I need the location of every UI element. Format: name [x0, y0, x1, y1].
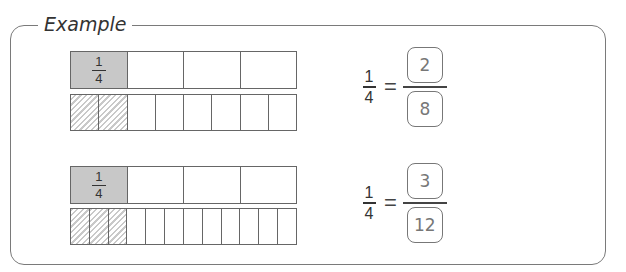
rhs-fraction: 3 12: [403, 163, 447, 243]
fraction-line: [363, 202, 376, 203]
answer-denominator-box[interactable]: 12: [407, 207, 443, 243]
equals-sign: =: [384, 192, 397, 214]
bar-cell: [165, 209, 184, 244]
cell-denominator: 4: [71, 72, 127, 86]
cell-fraction: 1 4: [71, 55, 127, 86]
lhs-fraction: 1 4: [362, 184, 376, 221]
cell-denominator: 4: [71, 187, 127, 201]
bar-cell-hatched: [90, 209, 109, 244]
cell-fraction: 1 4: [71, 170, 127, 201]
lhs-denominator: 4: [362, 89, 376, 106]
bar-cell: [184, 209, 203, 244]
lhs-numerator: 1: [362, 184, 376, 201]
fraction-line: [403, 86, 447, 88]
cell-numerator: 1: [71, 55, 127, 69]
bar-cell: [127, 209, 146, 244]
bar-cell: [222, 209, 241, 244]
fraction-line: [403, 202, 447, 204]
bar-cell: [212, 95, 240, 130]
bar-cell: [240, 209, 259, 244]
rhs-fraction: 2 8: [403, 47, 447, 127]
bar-cell: [203, 209, 222, 244]
bar-cell: [241, 52, 297, 88]
bar-cell: [128, 52, 185, 88]
answer-denominator-box[interactable]: 8: [407, 91, 443, 127]
bar-cell: [278, 209, 296, 244]
lhs-numerator: 1: [362, 68, 376, 85]
bar-cell-hatched: [71, 95, 99, 130]
equation-2: 1 4 = 3 12: [362, 163, 447, 243]
bar-cell-shaded: 1 4: [71, 52, 128, 88]
bar-cell: [259, 209, 278, 244]
lhs-fraction: 1 4: [362, 68, 376, 105]
bar-cell-hatched: [109, 209, 128, 244]
bar-cell: [241, 95, 269, 130]
split-bar-1: [70, 94, 297, 131]
bar-cell: [241, 167, 297, 203]
bar-cell: [128, 167, 185, 203]
bar-cell: [146, 209, 165, 244]
answer-numerator-box[interactable]: 2: [407, 47, 443, 83]
bar-cell: [184, 95, 212, 130]
whole-bar-1: 1 4: [70, 51, 297, 89]
bar-cell: [128, 95, 156, 130]
lhs-denominator: 4: [362, 205, 376, 222]
whole-bar-2: 1 4: [70, 166, 297, 204]
equation-1: 1 4 = 2 8: [362, 47, 447, 127]
bar-cell-hatched: [99, 95, 127, 130]
bar-cell: [184, 167, 241, 203]
bar-cell: [184, 52, 241, 88]
bar-cell-shaded: 1 4: [71, 167, 128, 203]
answer-numerator-box[interactable]: 3: [407, 163, 443, 199]
fraction-line: [363, 86, 376, 87]
cell-numerator: 1: [71, 170, 127, 184]
bar-cell: [269, 95, 296, 130]
bar-cell: [156, 95, 184, 130]
equals-sign: =: [384, 76, 397, 98]
example-title: Example: [38, 11, 132, 37]
split-bar-2: [70, 208, 297, 245]
bar-cell-hatched: [71, 209, 90, 244]
